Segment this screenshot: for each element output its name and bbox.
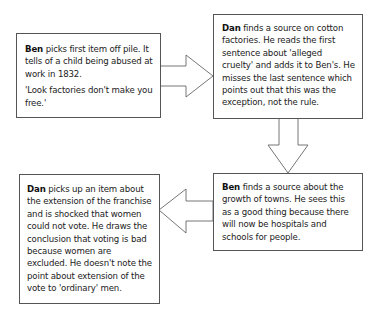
step-box-dan-cotton-factories: Dan finds a source on cotton factories. …	[213, 14, 363, 119]
step-text: Dan picks up an item about the extension…	[27, 183, 152, 295]
actor-name: Dan	[27, 184, 46, 194]
step-text: Dan finds a source on cotton factories. …	[222, 22, 355, 109]
step-text: Ben picks first item off pile. It tells …	[25, 43, 153, 80]
actor-name: Dan	[222, 23, 241, 33]
arrow-down-icon	[268, 118, 308, 173]
step-quote: 'Look factories don't make you free.'	[25, 84, 153, 109]
step-box-dan-franchise: Dan picks up an item about the extension…	[19, 174, 160, 304]
arrow-left-icon	[159, 189, 213, 233]
actor-name: Ben	[222, 182, 240, 192]
step-box-ben-first-item: Ben picks first item off pile. It tells …	[16, 33, 161, 118]
arrow-right-icon	[160, 55, 213, 97]
step-box-ben-growth-of-towns: Ben finds a source about the growth of t…	[213, 173, 363, 251]
step-text: Ben finds a source about the growth of t…	[222, 181, 355, 243]
actor-name: Ben	[25, 44, 43, 54]
